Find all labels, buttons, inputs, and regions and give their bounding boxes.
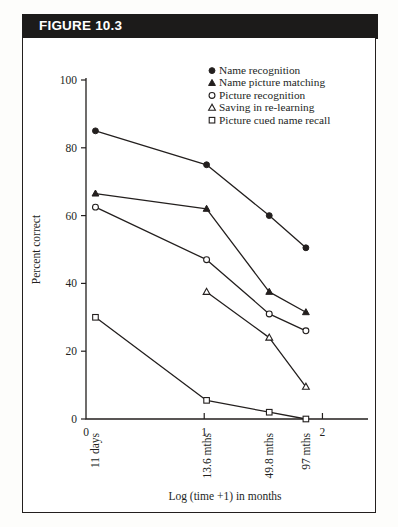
series-line xyxy=(96,317,306,419)
legend-item: Picture cued name recall xyxy=(209,114,330,126)
legend-label: Picture cued name recall xyxy=(219,114,330,126)
data-point-marker xyxy=(92,190,99,196)
data-point-marker xyxy=(204,398,210,404)
series-line xyxy=(96,131,306,248)
data-point-marker xyxy=(266,213,272,219)
x-axis-tick-label: 2 xyxy=(320,426,326,438)
series-line xyxy=(96,194,306,313)
data-point-marker xyxy=(302,309,309,315)
chart-series xyxy=(93,204,309,334)
figure-container: FIGURE 10.3 020406080100Percent correct0… xyxy=(0,0,398,527)
chart-svg: 020406080100Percent correct01211 days13.… xyxy=(0,0,398,527)
chart-series xyxy=(93,315,309,422)
legend-marker-open-square xyxy=(209,117,215,123)
series-line xyxy=(207,292,306,387)
data-point-marker xyxy=(303,328,309,334)
chart-series xyxy=(93,128,309,251)
x-axis-point-label: 97 mths xyxy=(300,432,312,469)
legend-item: Name picture matching xyxy=(209,76,326,88)
y-axis-title: Percent correct xyxy=(30,214,42,284)
data-point-marker xyxy=(93,128,99,134)
legend-label: Saving in re-learning xyxy=(219,101,315,113)
legend-marker-open-circle xyxy=(209,92,215,98)
legend-marker-open-triangle xyxy=(209,104,216,110)
data-point-marker xyxy=(204,162,210,168)
y-axis-tick-label: 100 xyxy=(60,74,78,86)
x-axis-point-label: 13.6 mths xyxy=(201,432,213,478)
legend-marker-filled-circle xyxy=(209,68,215,74)
y-axis-tick-label: 20 xyxy=(66,345,78,357)
data-point-marker xyxy=(266,334,273,340)
x-axis-tick-label: 0 xyxy=(83,426,89,438)
data-point-marker xyxy=(266,409,272,415)
data-point-marker xyxy=(93,204,99,210)
legend-item: Picture recognition xyxy=(209,89,306,101)
data-point-marker xyxy=(93,315,99,321)
y-axis-tick-label: 0 xyxy=(71,413,77,425)
legend-label: Name picture matching xyxy=(219,76,325,88)
series-line xyxy=(96,207,306,331)
y-axis-tick-label: 80 xyxy=(66,142,78,154)
legend-marker-filled-triangle xyxy=(209,79,216,85)
legend-item: Name recognition xyxy=(209,64,301,76)
legend-label: Name recognition xyxy=(219,64,301,76)
y-axis-tick-label: 40 xyxy=(66,277,78,289)
x-axis-point-label: 49.8 mths xyxy=(263,432,275,478)
data-point-marker xyxy=(203,288,210,294)
data-point-marker xyxy=(303,416,309,422)
x-axis-point-label: 11 days xyxy=(89,432,102,468)
data-point-marker xyxy=(303,245,309,251)
data-point-marker xyxy=(266,311,272,317)
chart-axes xyxy=(86,78,368,419)
x-axis-title: Log (time +1) in months xyxy=(168,490,282,503)
legend-label: Picture recognition xyxy=(219,89,306,101)
legend-item: Saving in re-learning xyxy=(209,101,315,113)
y-axis-tick-label: 60 xyxy=(66,210,78,222)
data-point-marker xyxy=(204,257,210,263)
chart-series xyxy=(92,190,309,315)
